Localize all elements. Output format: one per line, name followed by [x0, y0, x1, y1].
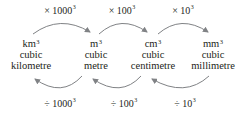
unit-symbol: cm3	[131, 38, 175, 49]
multiply-label-km-m: × 10003	[44, 6, 76, 16]
divide-label-cm-m: ÷ 1003	[111, 99, 138, 109]
arrow-cm3-to-m3	[93, 76, 141, 88]
unit-symbol: mm3	[191, 38, 235, 49]
multiply-label-cm-mm: × 103	[172, 6, 194, 16]
unit-line2: millimetre	[191, 60, 235, 71]
arrow-cm3-to-mm3	[158, 23, 208, 34]
unit-cubic-kilometre: km3 cubic kilometre	[11, 38, 51, 71]
unit-line2: centimetre	[131, 60, 175, 71]
divide-label-m-km: ÷ 10003	[44, 99, 76, 109]
unit-cubic-millimetre: mm3 cubic millimetre	[191, 38, 235, 71]
unit-symbol: m3	[84, 38, 108, 49]
arrow-m3-to-cm3	[99, 23, 147, 34]
arrow-mm3-to-cm3	[152, 76, 209, 88]
unit-line1: cubic	[84, 49, 108, 60]
unit-line2: metre	[84, 60, 108, 71]
unit-symbol: km3	[11, 38, 51, 49]
unit-line1: cubic	[191, 49, 235, 60]
arrow-km3-to-m3	[33, 23, 90, 34]
unit-line1: cubic	[131, 49, 175, 60]
divide-label-mm-cm: ÷ 103	[174, 99, 196, 109]
unit-line2: kilometre	[11, 60, 51, 71]
unit-cubic-metre: m3 cubic metre	[84, 38, 108, 71]
unit-cubic-centimetre: cm3 cubic centimetre	[131, 38, 175, 71]
multiply-label-m-cm: × 1003	[109, 6, 136, 16]
unit-line1: cubic	[11, 49, 51, 60]
arrow-m3-to-km3	[35, 76, 82, 88]
